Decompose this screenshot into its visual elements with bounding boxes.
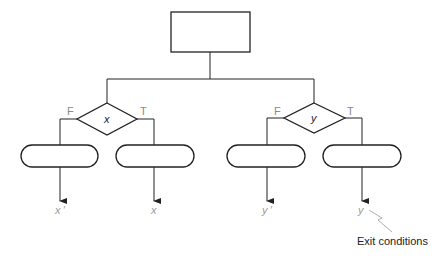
flowchart-canvas — [0, 0, 436, 258]
annotation-leader — [369, 210, 392, 232]
top-process-box — [171, 12, 250, 52]
process-pill-4 — [323, 145, 401, 167]
process-pill-1 — [21, 145, 98, 167]
exit-label-y-prime: y ′ — [262, 204, 272, 216]
x-false-path — [60, 119, 77, 145]
decision-y-label: y — [311, 112, 317, 124]
y-true-path — [345, 118, 362, 145]
decision-x-false-label: F — [67, 105, 74, 117]
y-false-path — [267, 118, 284, 145]
decision-x-true-label: T — [140, 105, 147, 117]
process-pill-3 — [227, 145, 305, 167]
exit-label-x: x — [151, 204, 157, 216]
x-true-path — [137, 119, 154, 145]
exit-conditions-caption: Exit conditions — [357, 235, 428, 247]
exit-label-x-prime: x ′ — [55, 204, 65, 216]
decision-x-label: x — [104, 113, 110, 125]
decision-y-true-label: T — [347, 105, 354, 117]
process-pill-2 — [116, 145, 194, 167]
exit-label-y: y — [358, 204, 364, 216]
decision-y-false-label: F — [274, 105, 281, 117]
